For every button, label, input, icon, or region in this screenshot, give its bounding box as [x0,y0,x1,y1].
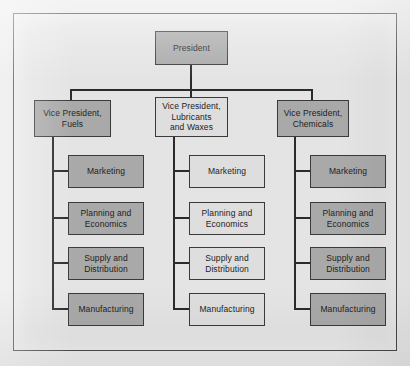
node-fuels-planning-and-economics: Planning and Economics [68,202,144,235]
vp-chemicals-line-1: Vice President, [284,108,343,118]
node-vice-president-chemicals-label: Vice President, Chemicals [280,108,346,130]
connector-stub-chemicals-2 [294,217,310,219]
node-lubricants-planning-and-economics-label: Planning and Economics [192,208,262,230]
org-chart-image: President Vice President, Fuels Marketin… [0,0,410,366]
node-lubricants-planning-and-economics: Planning and Economics [189,202,265,235]
node-fuels-marketing: Marketing [68,155,144,188]
node-lubricants-manufacturing-label: Manufacturing [192,304,262,315]
node-lubricants-supply-and-distribution-label: Supply and Distribution [192,253,262,275]
vp-fuels-line-2: Fuels [62,119,83,129]
connector-stub-lubricants-1 [173,170,189,172]
vp-fuels-line-1: Vice President, [43,108,102,118]
connector-stub-chemicals-4 [294,308,310,310]
connector-stub-chemicals-3 [294,262,310,264]
node-vice-president-lubricants-and-waxes-label: Vice President, Lubricants and Waxes [158,101,225,133]
vp-lubricants-line-2: Lubricants [171,112,211,122]
connector-stub-lubricants-3 [173,262,189,264]
node-fuels-supply-and-distribution: Supply and Distribution [68,247,144,280]
fuels-planning-line-2: Economics [85,219,127,229]
node-chemicals-marketing: Marketing [310,155,386,188]
node-vice-president-fuels: Vice President, Fuels [34,100,111,137]
node-chemicals-supply-and-distribution: Supply and Distribution [310,247,386,280]
node-vice-president-fuels-label: Vice President, Fuels [37,108,108,130]
node-chemicals-planning-and-economics: Planning and Economics [310,202,386,235]
connector-stub-chemicals-1 [294,170,310,172]
node-president-label: President [158,43,225,54]
node-chemicals-planning-and-economics-label: Planning and Economics [313,208,383,230]
connector-trunk-lubricants [173,137,175,310]
connector-trunk-chemicals [294,137,296,310]
node-chemicals-manufacturing: Manufacturing [310,293,386,326]
lubricants-supply-line-1: Supply and [205,253,249,263]
node-chemicals-manufacturing-label: Manufacturing [313,304,383,315]
connector-trunk-fuels [52,137,54,310]
connector-stub-lubricants-2 [173,217,189,219]
node-chemicals-marketing-label: Marketing [313,166,383,177]
node-president: President [155,31,228,65]
node-fuels-supply-and-distribution-label: Supply and Distribution [71,253,141,275]
connector-stub-fuels-3 [52,262,68,264]
chemicals-planning-line-2: Economics [327,219,369,229]
lubricants-planning-line-2: Economics [206,219,248,229]
chemicals-supply-line-1: Supply and [326,253,370,263]
connector-stub-fuels-4 [52,308,68,310]
vp-lubricants-line-3: and Waxes [170,122,213,132]
node-lubricants-manufacturing: Manufacturing [189,293,265,326]
fuels-planning-line-1: Planning and [81,208,132,218]
connector-stub-fuels-2 [52,217,68,219]
connector-stub-lubricants-4 [173,308,189,310]
node-fuels-manufacturing: Manufacturing [68,293,144,326]
fuels-supply-line-2: Distribution [84,264,128,274]
node-vice-president-lubricants-and-waxes: Vice President, Lubricants and Waxes [155,97,228,137]
node-fuels-marketing-label: Marketing [71,166,141,177]
node-lubricants-marketing-label: Marketing [192,166,262,177]
lubricants-supply-line-2: Distribution [205,264,249,274]
chemicals-planning-line-1: Planning and [323,208,374,218]
vp-lubricants-line-1: Vice President, [162,101,221,111]
lubricants-planning-line-1: Planning and [202,208,253,218]
node-fuels-manufacturing-label: Manufacturing [71,304,141,315]
connector-president-stem [190,65,192,90]
chemicals-supply-line-2: Distribution [326,264,370,274]
node-lubricants-marketing: Marketing [189,155,265,188]
node-lubricants-supply-and-distribution: Supply and Distribution [189,247,265,280]
connector-stub-fuels-1 [52,170,68,172]
vp-chemicals-line-2: Chemicals [293,119,334,129]
node-vice-president-chemicals: Vice President, Chemicals [277,100,349,137]
node-fuels-planning-and-economics-label: Planning and Economics [71,208,141,230]
node-chemicals-supply-and-distribution-label: Supply and Distribution [313,253,383,275]
fuels-supply-line-1: Supply and [84,253,128,263]
